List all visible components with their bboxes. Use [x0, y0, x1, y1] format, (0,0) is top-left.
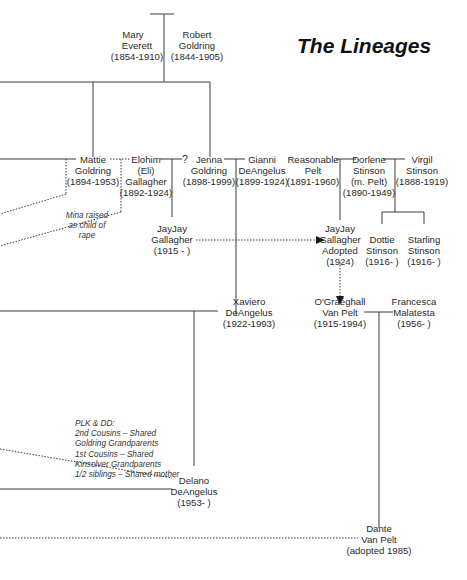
person-dates: (1924): [319, 256, 361, 267]
person-last-name: Malatesta: [392, 307, 437, 318]
person-first-name: O'Graéghall: [314, 296, 366, 307]
person-dates: (1916- ): [407, 256, 441, 267]
person-mary-everett: Mary Everett (1854-1910): [111, 29, 163, 62]
person-first-name: Robert: [171, 29, 223, 40]
person-first-name: Xaviero: [223, 296, 275, 307]
note-line: 2nd Cousins – Shared: [75, 429, 179, 439]
person-last-name: DeAngelus: [236, 165, 288, 176]
note-line: PLK & DD:: [75, 419, 179, 429]
person-first-name: Dorlene: [343, 154, 395, 165]
person-first-name: Francesca: [392, 296, 437, 307]
lineage-connector-lines: [0, 0, 467, 580]
person-last-name: Stinson: [365, 245, 399, 256]
person-last-name: Everett: [111, 40, 163, 51]
person-dates: (1899-1924): [236, 176, 288, 187]
person-last-name: Stinson: [343, 165, 395, 176]
person-last-name: Stinson: [407, 245, 441, 256]
person-first-name: Mattie: [67, 154, 119, 165]
person-dates: (1894-1953): [67, 176, 119, 187]
person-dates: (1915-1994): [314, 318, 366, 329]
note-line: 1st Cousins – Shared: [75, 450, 179, 460]
person-nickname: (Eli): [120, 165, 172, 176]
person-dates: (1890-1949): [343, 187, 395, 198]
person-married-name: (m. Pelt): [343, 176, 395, 187]
person-last-name: Gallagher: [120, 176, 172, 187]
person-last-name: Gallagher: [151, 234, 193, 245]
person-first-name: Mary: [103, 29, 163, 40]
person-elohim-gallagher: Elohim (Eli) Gallagher (1892-1924): [120, 154, 172, 198]
note-line: 1/2 siblings – Shared mother: [75, 470, 179, 480]
person-dates: (adopted 1985): [346, 545, 411, 556]
person-dates: (1898-1999): [183, 176, 235, 187]
person-delano-deangelus: Delano DeAngelus (1953- ): [171, 475, 218, 508]
person-dates: (1844-1905): [171, 51, 223, 62]
person-jayjay-gallagher: JayJay Gallagher (1915 - ): [151, 223, 193, 256]
person-first-name: Reasonable: [287, 154, 339, 165]
note-line: Mina raised: [66, 211, 108, 221]
person-francesca-malatesta: Francesca Malatesta (1956- ): [392, 296, 437, 329]
person-first-name: Delano: [171, 475, 218, 486]
person-last-name: DeAngelus: [171, 486, 218, 497]
person-gianni-deangelus: Gianni DeAngelus (1899-1924): [236, 154, 288, 187]
person-last-name: Van Pelt: [346, 534, 411, 545]
person-dates: (1888-1919): [396, 176, 448, 187]
person-dates: (1854-1910): [111, 51, 163, 62]
person-last-name: Pelt: [287, 165, 339, 176]
person-first-name: Starling: [407, 234, 441, 245]
note-line: Kinsolver Grandparents: [75, 460, 179, 470]
person-dorlene-stinson: Dorlene Stinson (m. Pelt) (1890-1949): [343, 154, 395, 198]
person-first-name: Elohim: [120, 154, 172, 165]
person-virgil-stinson: Virgil Stinson (1888-1919): [396, 154, 448, 187]
note-plk-dd-relationships: PLK & DD: 2nd Cousins – Shared Goldring …: [75, 419, 179, 480]
person-first-name: JayJay: [151, 223, 193, 234]
person-status: Adopted: [319, 245, 361, 256]
person-dates: (1915 - ): [151, 245, 193, 256]
person-mattie-goldring: Mattie Goldring (1894-1953): [67, 154, 119, 187]
person-jayjay-gallagher-adopted: JayJay Gallagher Adopted (1924): [319, 223, 361, 267]
person-first-name: JayJay: [319, 223, 361, 234]
person-dates: (1916- ): [365, 256, 399, 267]
person-last-name: Gallagher: [319, 234, 361, 245]
note-mina-raised: Mina raised as child of rape: [66, 211, 108, 242]
note-line: as child of: [66, 221, 108, 231]
person-dates: (1892-1924): [120, 187, 172, 198]
diagram-title: The Lineages: [297, 34, 431, 58]
person-dates: (1891-1960): [287, 176, 339, 187]
person-jenna-goldring: Jenna Goldring (1898-1999): [183, 154, 235, 187]
person-first-name: Jenna: [183, 154, 235, 165]
person-xaviero-deangelus: Xaviero DeAngelus (1922-1993): [223, 296, 275, 329]
person-reasonable-pelt: Reasonable Pelt (1891-1960): [287, 154, 339, 187]
person-dante-van-pelt: Dante Van Pelt (adopted 1985): [346, 523, 411, 556]
person-last-name: Goldring: [183, 165, 235, 176]
person-first-name: Gianni: [236, 154, 288, 165]
person-first-name: Dante: [346, 523, 411, 534]
person-dates: (1922-1993): [223, 318, 275, 329]
person-last-name: DeAngelus: [223, 307, 275, 318]
person-last-name: Goldring: [67, 165, 119, 176]
person-dates: (1956- ): [392, 318, 437, 329]
note-line: Goldring Grandparents: [75, 439, 179, 449]
person-ograeghall-van-pelt: O'Graéghall Van Pelt (1915-1994): [314, 296, 366, 329]
person-dates: (1953- ): [171, 497, 218, 508]
person-dottie-stinson: Dottie Stinson (1916- ): [365, 234, 399, 267]
person-last-name: Van Pelt: [314, 307, 366, 318]
person-first-name: Virgil: [396, 154, 448, 165]
person-first-name: Dottie: [365, 234, 399, 245]
person-last-name: Stinson: [396, 165, 448, 176]
note-line: rape: [66, 231, 108, 241]
person-robert-goldring: Robert Goldring (1844-1905): [171, 29, 223, 62]
person-last-name: Goldring: [171, 40, 223, 51]
person-starling-stinson: Starling Stinson (1916- ): [407, 234, 441, 267]
